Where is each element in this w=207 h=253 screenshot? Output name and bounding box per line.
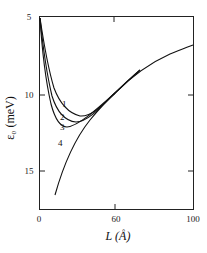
y-axis-label: ε₀ (meV) bbox=[3, 96, 17, 140]
x-tick-label-100: 100 bbox=[186, 214, 200, 224]
y-tick-label-10: 10 bbox=[25, 90, 35, 100]
curve-label-2: 2 bbox=[60, 112, 65, 122]
curve-4 bbox=[55, 70, 140, 195]
curve-2 bbox=[40, 18, 140, 122]
chart: 5 10 15 0 60 100 L (Å) ε₀ (meV) 1 2 3 4 bbox=[0, 0, 207, 253]
curve-label-3: 3 bbox=[60, 122, 65, 132]
y-tick-label-5: 5 bbox=[27, 12, 32, 22]
y-tick-label-15: 15 bbox=[25, 166, 35, 176]
curve-label-4: 4 bbox=[58, 138, 63, 148]
curve-3 bbox=[40, 18, 115, 127]
x-tick-label-0: 0 bbox=[37, 214, 42, 224]
x-axis-label: L (Å) bbox=[105, 229, 131, 243]
curve-label-1: 1 bbox=[62, 99, 67, 109]
x-tick-label-60: 60 bbox=[112, 214, 122, 224]
